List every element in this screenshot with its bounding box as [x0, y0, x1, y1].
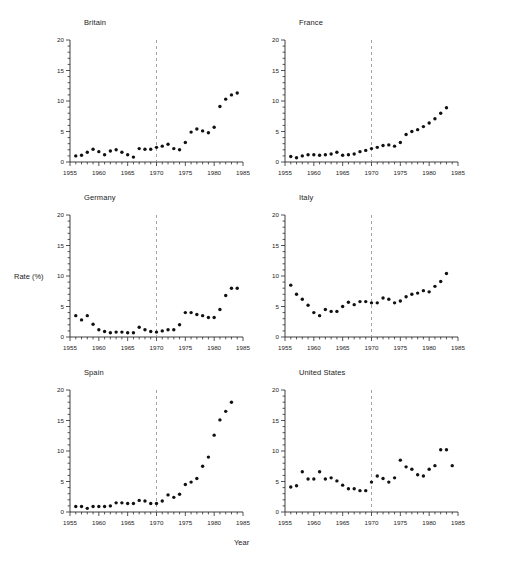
data-point — [114, 501, 117, 504]
panel-france: France0510152019551960196519701975198019… — [255, 15, 470, 190]
y-tick-label: 5 — [61, 303, 65, 310]
data-point — [445, 448, 448, 451]
data-point — [149, 502, 152, 505]
data-point — [318, 470, 321, 473]
panel-britain: Britain051015201955196019651970197519801… — [40, 15, 255, 190]
data-point — [178, 493, 181, 496]
panel-title-germany: Germany — [84, 193, 116, 202]
data-point — [109, 504, 112, 507]
data-point — [74, 154, 77, 157]
data-point — [86, 151, 89, 154]
x-tick-label: 1980 — [207, 344, 221, 351]
x-tick-label: 1960 — [92, 344, 106, 351]
data-point — [329, 476, 332, 479]
data-point — [218, 418, 221, 421]
data-point — [80, 318, 83, 321]
data-point — [218, 308, 221, 311]
data-point — [393, 476, 396, 479]
y-tick-label: 0 — [61, 158, 65, 165]
plot-britain: 051015201955196019651970197519801985 — [40, 15, 255, 190]
data-point — [404, 133, 407, 136]
data-point — [433, 285, 436, 288]
data-point — [212, 126, 215, 129]
data-point — [189, 130, 192, 133]
x-tick-label: 1985 — [451, 344, 465, 351]
data-point — [97, 150, 100, 153]
panel-united-states: United States051015201955196019651970197… — [255, 365, 470, 540]
data-point — [114, 330, 117, 333]
y-tick-label: 0 — [61, 333, 65, 340]
data-point — [416, 473, 419, 476]
y-tick-label: 15 — [57, 417, 64, 424]
data-point — [376, 301, 379, 304]
data-point — [155, 330, 158, 333]
data-point — [387, 480, 390, 483]
plot-united-states: 051015201955196019651970197519801985 — [255, 365, 470, 540]
data-point — [109, 331, 112, 334]
y-tick-label: 10 — [57, 272, 64, 279]
data-point — [335, 310, 338, 313]
data-point — [312, 477, 315, 480]
x-tick-label: 1955 — [278, 344, 292, 351]
data-point — [312, 153, 315, 156]
data-point — [184, 483, 187, 486]
data-point — [410, 293, 413, 296]
data-point — [324, 477, 327, 480]
data-point — [381, 477, 384, 480]
panel-germany: Germany051015201955196019651970197519801… — [40, 190, 255, 365]
data-point — [138, 147, 141, 150]
y-tick-label: 0 — [276, 508, 280, 515]
data-point — [126, 153, 129, 156]
data-point — [207, 455, 210, 458]
x-tick-label: 1965 — [336, 344, 350, 351]
x-tick-label: 1955 — [63, 519, 77, 526]
data-point — [80, 154, 83, 157]
data-point — [353, 487, 356, 490]
data-point — [132, 331, 135, 334]
data-point — [86, 314, 89, 317]
data-point — [120, 151, 123, 154]
x-tick-label: 1975 — [178, 519, 192, 526]
data-point — [381, 296, 384, 299]
data-point — [295, 293, 298, 296]
data-point — [195, 477, 198, 480]
data-point — [312, 311, 315, 314]
y-tick-label: 15 — [57, 242, 64, 249]
panel-spain: Spain05101520195519601965197019751980198… — [40, 365, 255, 540]
data-point — [178, 323, 181, 326]
plot-germany: 051015201955196019651970197519801985 — [40, 190, 255, 365]
y-tick-label: 20 — [57, 386, 64, 393]
data-point — [143, 147, 146, 150]
data-point — [224, 410, 227, 413]
panel-title-italy: Italy — [299, 193, 313, 202]
y-tick-label: 5 — [61, 128, 65, 135]
data-point — [155, 502, 158, 505]
data-point — [91, 505, 94, 508]
data-point — [295, 156, 298, 159]
data-point — [439, 112, 442, 115]
data-point — [166, 493, 169, 496]
x-tick-label: 1985 — [236, 344, 250, 351]
data-point — [236, 91, 239, 94]
data-point — [341, 305, 344, 308]
data-point — [353, 303, 356, 306]
data-point — [74, 505, 77, 508]
x-tick-label: 1955 — [63, 344, 77, 351]
y-tick-label: 15 — [272, 67, 279, 74]
data-point — [399, 299, 402, 302]
data-point — [289, 155, 292, 158]
data-point — [143, 499, 146, 502]
data-point — [445, 272, 448, 275]
data-point — [166, 328, 169, 331]
data-point — [324, 153, 327, 156]
panel-title-united-states: United States — [299, 368, 345, 377]
data-point — [399, 458, 402, 461]
data-point — [335, 151, 338, 154]
x-tick-label: 1960 — [307, 344, 321, 351]
panel-title-britain: Britain — [84, 18, 106, 27]
y-tick-label: 10 — [272, 97, 279, 104]
x-tick-label: 1960 — [307, 519, 321, 526]
data-series-france — [289, 106, 448, 159]
x-tick-label: 1960 — [92, 519, 106, 526]
data-point — [132, 502, 135, 505]
